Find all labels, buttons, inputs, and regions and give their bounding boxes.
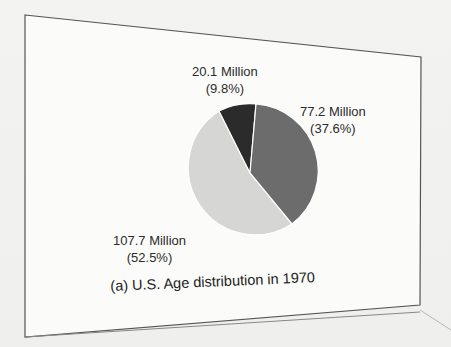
chart-frame <box>0 0 451 347</box>
pie-chart <box>188 104 318 235</box>
slice-percent: (37.6%) <box>300 120 366 137</box>
slice-label-light: 107.7 Million (52.5%) <box>113 232 186 266</box>
slice-percent: (9.8%) <box>192 80 258 97</box>
slice-value: 20.1 Million <box>192 63 258 80</box>
slice-label-dark: 20.1 Million (9.8%) <box>192 63 258 97</box>
slice-label-medium: 77.2 Million (37.6%) <box>300 103 366 137</box>
slice-value: 77.2 Million <box>300 103 366 120</box>
slice-percent: (52.5%) <box>113 249 186 266</box>
slice-value: 107.7 Million <box>113 232 186 249</box>
